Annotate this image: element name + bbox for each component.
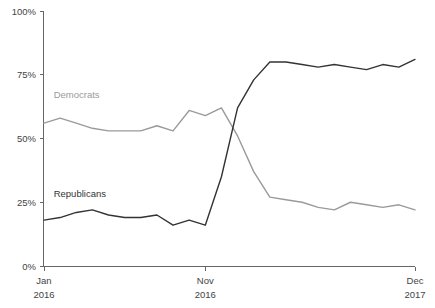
x-tick-label-month: Jan <box>36 275 51 286</box>
political-approval-line-chart: 0%25%50%75%100% Jan2016Nov2016Dec2017 De… <box>0 0 435 308</box>
series-label-republicans: Republicans <box>54 188 107 199</box>
series-group <box>44 59 415 225</box>
chart-canvas: 0%25%50%75%100% Jan2016Nov2016Dec2017 De… <box>0 0 435 308</box>
y-axis: 0%25%50%75%100% <box>12 6 44 272</box>
x-tick-label-month: Dec <box>407 275 424 286</box>
series-label-democrats: Democrats <box>54 89 100 100</box>
y-tick-label: 50% <box>17 133 37 144</box>
y-tick-label: 100% <box>12 6 37 17</box>
series-line-republicans <box>44 59 415 225</box>
x-tick-group: Jan2016Nov2016Dec2017 <box>33 267 425 301</box>
x-tick-label-year: 2016 <box>33 289 54 300</box>
y-tick-label: 25% <box>17 197 37 208</box>
x-axis: Jan2016Nov2016Dec2017 <box>33 267 425 301</box>
series-label-group: DemocratsRepublicans <box>54 89 107 199</box>
y-tick-group: 0%25%50%75%100% <box>12 6 44 272</box>
y-tick-label: 75% <box>17 69 37 80</box>
x-tick-label-month: Nov <box>197 275 214 286</box>
x-tick-label-year: 2016 <box>195 289 216 300</box>
y-tick-label: 0% <box>22 261 36 272</box>
x-tick-label-year: 2017 <box>404 289 425 300</box>
